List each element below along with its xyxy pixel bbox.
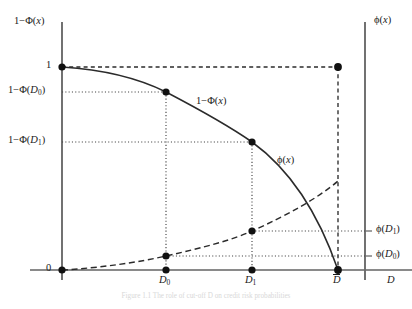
marker-x-d1: [248, 266, 255, 273]
marker-density-d1: [248, 227, 255, 234]
marker-one: [58, 63, 65, 70]
marker-zero: [58, 266, 65, 273]
y-tick-label-phi-d0: ϕ(D0): [376, 249, 400, 260]
x-axis-title: D: [387, 275, 395, 286]
x-tick-label-d1: D1: [245, 275, 256, 286]
marker-survival-d1: [248, 138, 255, 145]
y-axis-right-title: ϕ(x): [374, 15, 391, 26]
figure-caption: Figure 1.1 The role of cut-off D on cred…: [0, 292, 412, 300]
x-tick-label-d0: D0: [159, 275, 170, 286]
marker-corner-top: [334, 63, 342, 71]
y-tick-label-one-minus-phi-d0: 1−Φ(D0): [8, 85, 45, 96]
plot-canvas: [0, 0, 412, 309]
y-tick-label-one: 1: [46, 60, 51, 71]
marker-density-d0: [162, 252, 169, 259]
y-axis-left-title: 1−Φ(x): [14, 16, 45, 27]
curve-density: [62, 181, 338, 270]
y-tick-label-phi-d1: ϕ(D1): [376, 224, 400, 235]
marker-survival-d0: [162, 88, 169, 95]
marker-x-d0: [162, 266, 169, 273]
curve-label-density: ϕ(x): [277, 155, 294, 166]
x-tick-label-dbar: D: [333, 275, 341, 286]
y-tick-label-one-minus-phi-d1: 1−Φ(D1): [8, 135, 45, 146]
curve-label-survival: 1−Φ(x): [196, 96, 227, 107]
figure-container: 1−Φ(x) ϕ(x) D 1 1−Φ(D0) 1−Φ(D1) 0 ϕ(D1) …: [0, 0, 412, 309]
marker-x-dbar: [334, 266, 342, 274]
y-tick-label-zero: 0: [46, 263, 51, 274]
